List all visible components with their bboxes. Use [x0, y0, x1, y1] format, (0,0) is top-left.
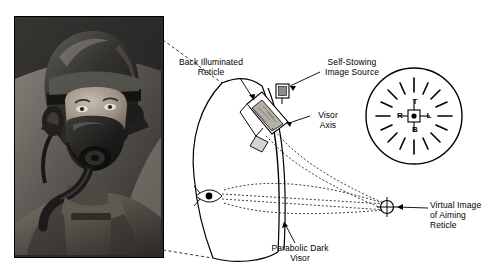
- leader-image-source: [290, 72, 320, 86]
- figure-canvas: T R L B Back Illuminated Reticle Self-St…: [0, 0, 501, 280]
- leader-visor-axis: [292, 116, 310, 122]
- leader-lines: [0, 0, 501, 280]
- leader-arrowheads: [249, 86, 403, 228]
